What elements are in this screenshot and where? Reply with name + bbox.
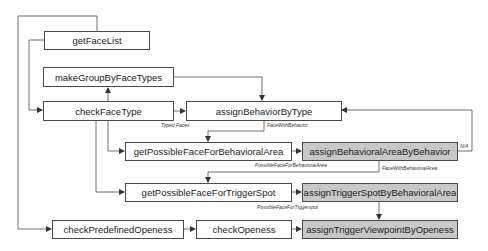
node-get-possible-face-for-behavioral-area: getPossibleFaceForBehavioralArea bbox=[125, 142, 292, 161]
node-assign-trigger-viewpoint-by-openess: assignTriggerViewpointByOpeness bbox=[302, 220, 458, 239]
edge-label-face-with-behavior: FaceWithBehavior bbox=[267, 122, 308, 128]
node-assign-behavior-by-type: assignBehaviorByType bbox=[186, 101, 342, 121]
edge-label-typed-faces: Typed Faces bbox=[161, 122, 190, 128]
flowchart-diagram: getFaceList makeGroupByFaceTypes checkFa… bbox=[0, 0, 488, 251]
edge-label-na: N/A bbox=[460, 143, 468, 149]
node-assign-behavioral-area-by-behavior: assignBehavioralAreaByBehavior bbox=[302, 142, 458, 161]
node-make-group-by-face-types: makeGroupByFaceTypes bbox=[43, 67, 174, 87]
node-check-predefined-openess: checkPredefinedOpeness bbox=[52, 220, 184, 239]
edge-label-possible-face-for-trigger-spot: PossibleFaceForTiggerspot bbox=[257, 204, 318, 210]
edge-label-possible-face-for-behavioral-area: PossibleFaceForBehavioralArea bbox=[255, 162, 327, 168]
node-check-openess: checkOpeness bbox=[196, 220, 292, 239]
node-get-possible-face-for-trigger-spot: getPossibleFaceForTriggerSpot bbox=[125, 183, 292, 202]
edge-label-face-with-behavioral-area: FaceWithBehavioralArea bbox=[382, 165, 437, 171]
node-assign-trigger-spot-by-behavioral-area: assignTriggerSpotByBehavioralArea bbox=[302, 183, 458, 202]
node-check-face-type: checkFaceType bbox=[43, 101, 174, 121]
node-get-face-list: getFaceList bbox=[44, 31, 150, 50]
